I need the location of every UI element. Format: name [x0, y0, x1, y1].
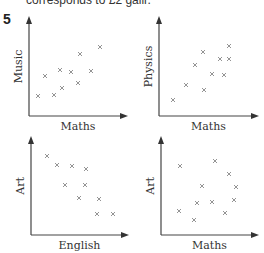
y-axis-arrow-icon [156, 16, 162, 24]
data-point-cross-icon [98, 45, 102, 49]
data-point-cross-icon [77, 196, 81, 200]
scatter-graph-3: EnglishArt [14, 136, 129, 252]
x-axis-arrow-icon [251, 113, 259, 119]
x-axis-label: Maths [192, 239, 227, 252]
data-point-cross-icon [76, 81, 80, 85]
data-point-cross-icon [55, 163, 59, 167]
y-axis-arrow-icon [158, 136, 164, 144]
data-point-cross-icon [84, 167, 88, 171]
data-point-cross-icon [97, 197, 101, 201]
y-axis-arrow-icon [28, 136, 34, 144]
data-point-cross-icon [195, 201, 199, 205]
data-point-cross-icon [36, 94, 40, 98]
y-axis-label: Art [144, 177, 157, 196]
data-point-cross-icon [69, 70, 73, 74]
data-point-cross-icon [210, 72, 214, 76]
data-point-cross-icon [193, 63, 197, 67]
data-point-cross-icon [202, 88, 206, 92]
data-point-cross-icon [111, 212, 115, 216]
data-point-cross-icon [43, 74, 47, 78]
data-point-cross-icon [83, 183, 87, 187]
data-point-cross-icon [232, 198, 236, 202]
x-axis-arrow-icon [120, 113, 128, 119]
data-point-cross-icon [58, 68, 62, 72]
data-point-cross-icon [45, 154, 49, 158]
data-point-cross-icon [78, 52, 82, 56]
data-point-cross-icon [227, 44, 231, 48]
data-point-cross-icon [222, 73, 226, 77]
data-point-cross-icon [200, 184, 204, 188]
data-point-cross-icon [60, 86, 64, 90]
y-axis-label: Art [14, 177, 27, 196]
data-point-cross-icon [52, 93, 56, 97]
x-axis-label: English [59, 239, 101, 252]
data-point-cross-icon [63, 183, 67, 187]
data-point-cross-icon [213, 159, 217, 163]
x-axis-label: Maths [191, 120, 226, 133]
data-point-cross-icon [227, 57, 231, 61]
y-axis-arrow-icon [26, 16, 32, 24]
scatter-graphs: MathsMusicMathsPhysicsEnglishArtMathsArt [0, 0, 264, 253]
scatter-graph-1: MathsMusic [12, 16, 128, 133]
x-axis-arrow-icon [121, 232, 129, 238]
scatter-graph-2: MathsPhysics [142, 16, 259, 133]
data-point-cross-icon [70, 164, 74, 168]
data-point-cross-icon [218, 57, 222, 61]
data-point-cross-icon [171, 98, 175, 102]
data-point-cross-icon [223, 211, 227, 215]
data-point-cross-icon [210, 200, 214, 204]
data-point-cross-icon [89, 69, 93, 73]
data-point-cross-icon [177, 209, 181, 213]
y-axis-label: Music [12, 50, 25, 84]
data-point-cross-icon [178, 164, 182, 168]
x-axis-label: Maths [61, 120, 96, 133]
data-point-cross-icon [234, 185, 238, 189]
data-point-cross-icon [184, 83, 188, 87]
data-point-cross-icon [201, 50, 205, 54]
scatter-graph-4: MathsArt [144, 136, 259, 252]
data-point-cross-icon [227, 172, 231, 176]
data-point-cross-icon [95, 212, 99, 216]
x-axis-arrow-icon [251, 232, 259, 238]
data-point-cross-icon [192, 218, 196, 222]
y-axis-label: Physics [142, 45, 155, 87]
